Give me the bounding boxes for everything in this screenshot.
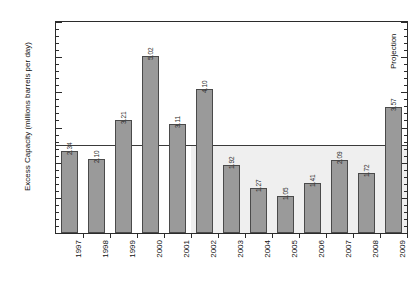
- bar: [250, 188, 267, 233]
- x-tick-label: 2003: [236, 240, 245, 258]
- y-tick-minor: [56, 156, 59, 157]
- bar: [304, 183, 321, 233]
- bar: [169, 124, 186, 233]
- y-tick-minor: [56, 29, 59, 30]
- bar-value-label: 1.72: [363, 164, 370, 177]
- x-tick-label: 2009: [398, 240, 407, 258]
- x-tick-label: 2008: [371, 240, 380, 258]
- x-tick: [218, 233, 219, 238]
- x-tick: [137, 233, 138, 238]
- y-tick-minor-right: [404, 120, 407, 121]
- bar-value-label: 2.10: [93, 150, 100, 163]
- x-tick: [299, 233, 300, 238]
- y-tick-minor-right: [404, 85, 407, 86]
- bar-value-label: 1.92: [228, 157, 235, 170]
- bar-value-label: 1.27: [255, 180, 262, 193]
- y-tick-major: [56, 128, 62, 129]
- chart-figure: Excess Capacity (millions barrels per da…: [0, 0, 418, 291]
- y-tick-minor-right: [404, 205, 407, 206]
- x-tick: [353, 233, 354, 238]
- y-tick-minor-right: [404, 226, 407, 227]
- y-tick-minor-right: [404, 43, 407, 44]
- y-tick-minor: [56, 226, 59, 227]
- y-tick-minor: [56, 36, 59, 37]
- y-tick-minor-right: [404, 212, 407, 213]
- x-tick: [326, 233, 327, 238]
- reference-line: [56, 145, 407, 146]
- x-tick: [164, 233, 165, 238]
- y-tick-minor-right: [404, 99, 407, 100]
- y-tick-major: [56, 233, 62, 234]
- bar-value-label: 2.09: [336, 151, 343, 164]
- bar-value-label: 1.41: [309, 175, 316, 188]
- x-tick-label: 2002: [209, 240, 218, 258]
- y-tick-minor-right: [404, 71, 407, 72]
- x-tick-label: 1999: [128, 240, 137, 258]
- plot-area: 2.342.103.215.023.114.101.921.271.051.41…: [55, 21, 408, 234]
- bar-value-label: 2.34: [66, 142, 73, 155]
- y-tick-major-right: [401, 57, 407, 58]
- bar: [277, 196, 294, 233]
- bar: [142, 56, 159, 233]
- y-tick-minor: [56, 212, 59, 213]
- bar: [115, 120, 132, 233]
- bar: [88, 159, 105, 233]
- y-tick-minor: [56, 64, 59, 65]
- x-tick-label: 2000: [155, 240, 164, 258]
- x-tick-label: 2007: [344, 240, 353, 258]
- y-tick-major: [56, 57, 62, 58]
- y-tick-major-right: [401, 128, 407, 129]
- x-tick-label: 1998: [101, 240, 110, 258]
- y-tick-minor: [56, 85, 59, 86]
- y-tick-minor-right: [404, 135, 407, 136]
- y-tick-minor: [56, 43, 59, 44]
- bar-value-label: 3.11: [174, 115, 181, 127]
- y-tick-minor-right: [404, 64, 407, 65]
- y-tick-minor: [56, 113, 59, 114]
- bar-value-label: 3.21: [120, 111, 127, 124]
- x-tick-label: 2006: [317, 240, 326, 258]
- y-tick-minor: [56, 170, 59, 171]
- y-tick-minor-right: [404, 36, 407, 37]
- y-tick-minor-right: [404, 191, 407, 192]
- y-tick-minor: [56, 71, 59, 72]
- bar: [61, 151, 78, 233]
- y-tick-minor: [56, 149, 59, 150]
- bar: [223, 165, 240, 233]
- x-tick-label: 2001: [182, 240, 191, 258]
- y-tick-minor-right: [404, 184, 407, 185]
- y-tick-minor: [56, 205, 59, 206]
- y-tick-minor: [56, 142, 59, 143]
- y-tick-minor: [56, 50, 59, 51]
- x-tick: [407, 233, 408, 238]
- y-tick-minor: [56, 135, 59, 136]
- y-tick-minor-right: [404, 170, 407, 171]
- x-tick: [380, 233, 381, 238]
- bar-value-label: 3.57: [390, 99, 397, 112]
- y-axis-title: Excess Capacity (millions barrels per da…: [23, 12, 32, 222]
- y-tick-minor-right: [404, 219, 407, 220]
- bar: [358, 173, 375, 233]
- bar: [196, 89, 213, 233]
- x-tick: [110, 233, 111, 238]
- x-tick-label: 1997: [74, 240, 83, 258]
- y-tick-minor-right: [404, 50, 407, 51]
- y-tick-minor: [56, 177, 59, 178]
- x-tick-label: 2004: [263, 240, 272, 258]
- bar-value-label: 4.10: [201, 80, 208, 93]
- bar: [385, 107, 402, 233]
- y-tick-minor-right: [404, 156, 407, 157]
- y-tick-minor: [56, 191, 59, 192]
- x-tick: [245, 233, 246, 238]
- y-tick-major-right: [401, 92, 407, 93]
- y-tick-minor: [56, 99, 59, 100]
- y-tick-minor: [56, 219, 59, 220]
- x-tick: [83, 233, 84, 238]
- y-tick-minor: [56, 78, 59, 79]
- y-tick-minor: [56, 120, 59, 121]
- x-tick-label: 2005: [290, 240, 299, 258]
- x-tick: [191, 233, 192, 238]
- y-tick-major-right: [401, 22, 407, 23]
- plot-inner: 2.342.103.215.023.114.101.921.271.051.41…: [56, 22, 407, 233]
- y-tick-minor-right: [404, 113, 407, 114]
